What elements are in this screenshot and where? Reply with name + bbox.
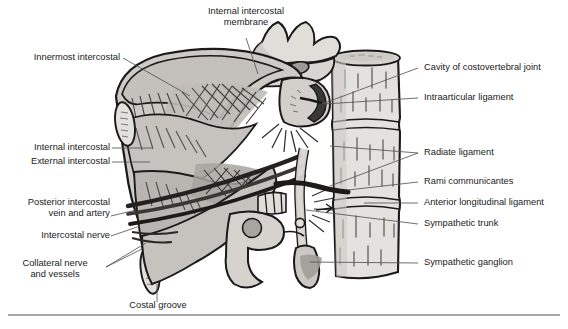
label-internal-intercostal: Internal intercostal [0,142,110,153]
label-sympathetic-trunk: Sympathetic trunk [424,218,498,229]
label-anterior-longitudinal-ligament: Anterior longitudinal ligament [424,197,544,208]
costovertebral-joint-group [262,77,330,152]
label-internal-intercostal-membrane: Internal intercostal membrane [176,6,316,29]
label-radiate-ligament: Radiate ligament [424,147,494,158]
label-cavity-of-costovertebral-joint: Cavity of costovertebral joint [424,62,541,73]
anatomical-figure: Internal intercostal membrane Innermost … [0,0,568,329]
label-sympathetic-ganglion: Sympathetic ganglion [424,257,513,268]
label-intercostal-nerve: Intercostal nerve [0,230,110,241]
label-rami-communicantes: Rami communicantes [424,176,513,187]
leader-collateral-2 [106,249,142,267]
label-innermost-intercostal: Innermost intercostal [0,52,120,63]
label-intraarticular-ligament: Intraarticular ligament [424,92,513,103]
leader-intercostal-nerve [111,226,140,236]
vertebral-body-group [332,51,400,279]
label-posterior-intercostal-vein-and-artery: Posterior intercostal vein and artery [0,197,110,220]
label-external-intercostal: External intercostal [0,156,110,167]
leader-sympathetic-ganglion [310,262,418,263]
label-costal-groove: Costal groove [112,300,204,311]
label-collateral-nerve-and-vessels: Collateral nerve and vessels [4,258,106,281]
